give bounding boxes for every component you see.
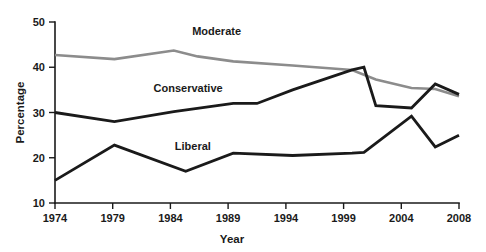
series-line-liberal [55, 116, 459, 180]
y-tick-label-30: 30 [33, 107, 45, 119]
y-axis-title: Percentage [14, 81, 26, 143]
x-tick-label-1984: 1984 [158, 212, 183, 224]
y-tick-label-20: 20 [33, 152, 45, 164]
x-tick-label-2008: 2008 [447, 212, 471, 224]
x-tick-label-1979: 1979 [100, 212, 124, 224]
x-tick-label-1989: 1989 [216, 212, 240, 224]
y-tick-label-10: 10 [33, 197, 45, 209]
series-line-conservative [55, 67, 459, 121]
x-axis-title: Year [220, 233, 245, 245]
y-tick-label-50: 50 [33, 16, 45, 28]
x-tick-label-1974: 1974 [43, 212, 68, 224]
series-label-liberal: Liberal [175, 140, 211, 152]
y-tick-marks [49, 22, 55, 203]
chart-canvas: 50 40 30 20 10 1974 1979 1984 1989 1994 … [0, 0, 486, 252]
series-line-moderate [55, 51, 459, 97]
x-tick-label-2004: 2004 [389, 212, 414, 224]
line-chart: 50 40 30 20 10 1974 1979 1984 1989 1994 … [0, 0, 486, 252]
x-tick-label-1994: 1994 [274, 212, 299, 224]
y-tick-label-40: 40 [33, 61, 45, 73]
series-label-conservative: Conservative [154, 82, 223, 94]
series-label-moderate: Moderate [192, 25, 241, 37]
x-tick-marks [55, 203, 459, 209]
x-tick-label-1999: 1999 [331, 212, 355, 224]
